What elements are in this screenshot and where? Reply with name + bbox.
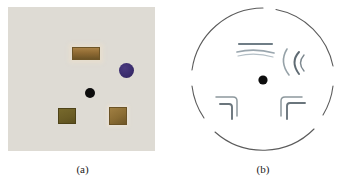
panel-b-left-corner-bracket xyxy=(216,97,237,119)
circle-arc-bottom xyxy=(215,129,314,150)
panel-a-fixation-dot xyxy=(85,88,95,98)
panel-a-tan-square xyxy=(109,107,127,125)
panel-b xyxy=(175,0,351,186)
circle-arc-lower-left xyxy=(192,86,204,118)
circle-arc-upper-right xyxy=(276,10,333,67)
panel-a-purple-disc xyxy=(119,63,134,78)
panel-b-double-line-contour xyxy=(237,44,274,57)
panel-a-caption: (a) xyxy=(0,163,165,175)
panel-b-fixation-dot xyxy=(258,75,267,84)
panel-b-drawing xyxy=(175,0,351,160)
figure-container: (a) (b) xyxy=(0,0,351,186)
panel-a-gray-field xyxy=(8,7,155,151)
circle-arc-lower-right xyxy=(323,86,333,115)
panel-a-horizontal-bar xyxy=(72,47,100,60)
panel-a xyxy=(0,0,175,186)
panel-a-olive-square xyxy=(58,108,76,124)
panel-b-caption: (b) xyxy=(175,163,351,175)
panel-b-crescent-contour xyxy=(283,49,304,75)
circle-arc-upper-left xyxy=(192,8,263,70)
panel-b-right-corner-bracket xyxy=(281,97,305,119)
